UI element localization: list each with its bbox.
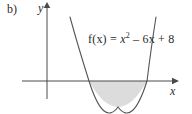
part-label: b)	[7, 3, 17, 15]
y-axis-arrow-icon	[44, 2, 51, 8]
x-axis-label: x	[170, 85, 175, 97]
function-graph-figure: b) y x f(x) = x2 – 6x + 8	[0, 0, 192, 114]
function-equation-label: f(x) = x2 – 6x + 8	[88, 33, 174, 45]
y-axis-label: y	[38, 2, 43, 14]
equation-lhs: f(x) =	[88, 32, 120, 46]
equation-rest: – 6x + 8	[130, 32, 175, 46]
graph-canvas	[0, 0, 192, 114]
